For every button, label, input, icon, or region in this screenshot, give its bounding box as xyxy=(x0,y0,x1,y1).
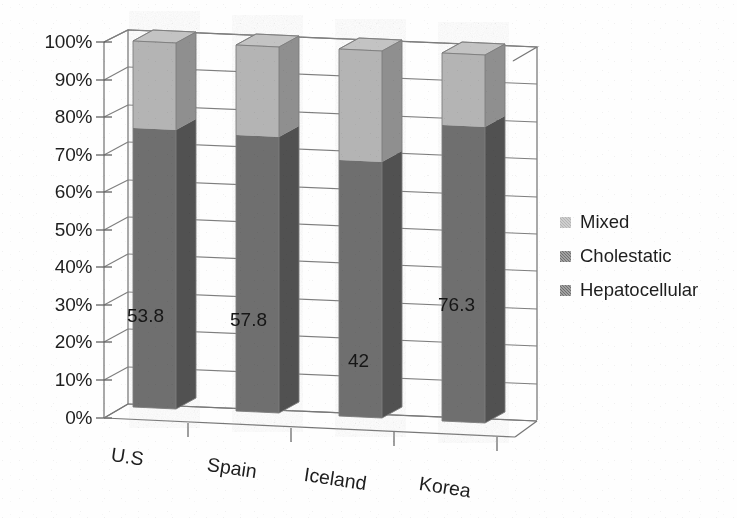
legend-swatch-mixed xyxy=(560,217,571,228)
y-tick-label-80: 80% xyxy=(0,106,92,128)
y-tick-label-10: 10% xyxy=(0,369,92,391)
y-tick-label-30: 30% xyxy=(0,294,92,316)
legend-label-hepatocellular: Hepatocellular xyxy=(580,279,698,301)
y-tick-label-0: 0% xyxy=(0,407,92,429)
x-category-label-us: U.S xyxy=(110,443,146,471)
y-tick-label-50: 50% xyxy=(0,219,92,241)
bar-spain xyxy=(236,34,299,413)
legend-item-mixed[interactable]: Mixed xyxy=(560,205,730,239)
legend-label-mixed: Mixed xyxy=(580,211,629,233)
data-label-us: 53.8 xyxy=(127,305,164,327)
y-tick-label-20: 20% xyxy=(0,331,92,353)
legend-item-hepatocellular[interactable]: Hepatocellular xyxy=(560,273,730,307)
chart-x-tickmarks xyxy=(188,423,497,451)
y-tick-label-60: 60% xyxy=(0,181,92,203)
y-tick-label-70: 70% xyxy=(0,144,92,166)
bar-korea xyxy=(442,42,505,423)
y-tick-label-90: 90% xyxy=(0,69,92,91)
chart-legend: Mixed Cholestatic Hepatocellular xyxy=(560,205,730,307)
legend-label-cholestatic: Cholestatic xyxy=(580,245,672,267)
data-label-spain: 57.8 xyxy=(230,309,267,331)
data-label-korea: 76.3 xyxy=(438,294,475,316)
y-tick-label-40: 40% xyxy=(0,256,92,278)
bar-us xyxy=(133,30,196,409)
chart-container: 100% 90% 80% 70% 60% 50% 40% 30% 20% 10%… xyxy=(0,0,737,518)
chart-tick-connectors xyxy=(104,30,128,418)
legend-swatch-cholestatic xyxy=(560,251,571,262)
y-tick-label-100: 100% xyxy=(0,31,92,53)
legend-swatch-hepatocellular xyxy=(560,285,571,296)
data-label-iceland: 42 xyxy=(348,350,369,372)
legend-item-cholestatic[interactable]: Cholestatic xyxy=(560,239,730,273)
